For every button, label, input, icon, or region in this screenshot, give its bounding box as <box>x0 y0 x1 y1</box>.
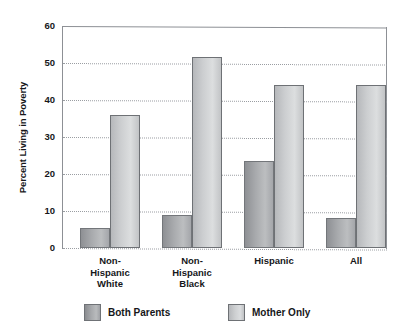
bar <box>162 215 192 248</box>
x-axis-category-label: Non- Hispanic Black <box>152 255 232 290</box>
legend-entry: Mother Only <box>228 303 310 322</box>
legend-label: Both Parents <box>108 307 170 318</box>
bar <box>326 218 356 248</box>
x-axis-category-label: Non- Hispanic White <box>70 255 150 290</box>
x-axis-category-label: Hispanic <box>234 255 314 267</box>
plot-area <box>62 26 387 248</box>
y-axis-title: Percent Living in Poverty <box>17 58 28 218</box>
y-axis-tick-label: 60 <box>29 20 55 31</box>
bar <box>274 85 304 248</box>
bar <box>244 161 274 248</box>
legend-swatch <box>228 304 245 321</box>
y-axis-tick-label: 20 <box>29 168 55 179</box>
y-axis-tick-label: 0 <box>29 242 55 253</box>
bar <box>110 115 140 248</box>
x-axis-category-label: All <box>316 255 396 267</box>
bar <box>356 85 386 248</box>
legend-entry: Both Parents <box>84 303 170 322</box>
gridline <box>63 63 387 66</box>
y-axis-tick-label: 40 <box>29 94 55 105</box>
legend-label: Mother Only <box>252 307 310 318</box>
legend-swatch <box>84 304 101 321</box>
bar <box>192 57 222 248</box>
gridline <box>63 100 387 103</box>
bar <box>80 228 110 248</box>
bar-chart-figure: Percent Living in Poverty 6050403020100 … <box>0 0 406 336</box>
gridline <box>63 248 387 251</box>
y-axis-tick-label: 10 <box>29 205 55 216</box>
plot-top-border <box>62 26 387 29</box>
y-axis-tick-label: 30 <box>29 131 55 142</box>
y-axis-tick-label: 50 <box>29 57 55 68</box>
